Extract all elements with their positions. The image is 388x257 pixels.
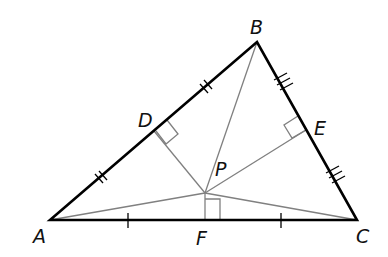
label-F: F	[196, 227, 208, 249]
label-A: A	[31, 225, 46, 247]
right-angle-D-icon	[156, 120, 178, 144]
label-D: D	[138, 109, 153, 131]
label-P: P	[215, 158, 227, 180]
segment-PD	[154, 131, 205, 193]
triangle-diagram: A B C D E F P	[0, 0, 388, 257]
right-angle-markers	[156, 116, 306, 220]
right-angle-E-icon	[284, 116, 306, 138]
right-angle-F-icon	[205, 199, 220, 220]
segments-to-vertices	[50, 42, 357, 220]
label-C: C	[356, 225, 370, 247]
label-E: E	[314, 117, 326, 139]
label-B: B	[250, 16, 263, 38]
